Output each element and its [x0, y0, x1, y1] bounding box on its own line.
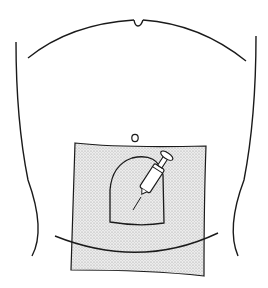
- abdomen-diagram: [0, 0, 268, 288]
- umbilicus: [132, 134, 138, 141]
- torso-left-outline: [16, 42, 38, 256]
- xiphoid-notch: [134, 20, 143, 26]
- torso-right-outline: [233, 36, 256, 256]
- medical-illustration: [0, 0, 268, 288]
